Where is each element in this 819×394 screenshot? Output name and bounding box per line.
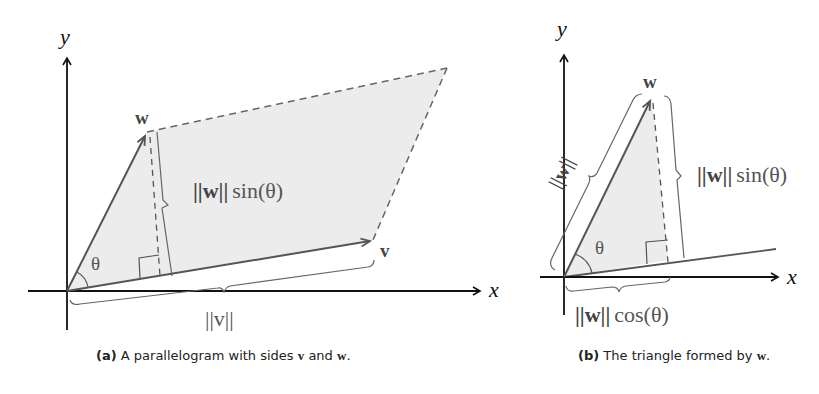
caption-b-w: w <box>757 348 766 363</box>
height-label: ||w||sin(θ) <box>193 178 283 203</box>
figure-b-triangle: x y w θ ||w|| ||w||sin(θ) ||w||cos(θ) <box>540 16 797 327</box>
caption-a: (a) A parallelogram with sides v and w. <box>96 348 351 364</box>
caption-b-text: The triangle formed by <box>603 348 752 363</box>
figure-a-parallelogram: x y w v θ ||w||sin(θ) ||v|| <box>28 24 499 331</box>
base-label: ||v|| <box>205 306 234 331</box>
caption-a-w: w <box>337 348 346 363</box>
angle-label-b: θ <box>595 237 604 258</box>
hypotenuse-label: ||w|| <box>544 153 579 192</box>
y-axis-label-b: y <box>555 16 567 41</box>
height-brace-b <box>664 96 684 258</box>
x-axis-label: x <box>488 277 499 302</box>
triangle-fill <box>564 97 668 277</box>
caption-a-tag: (a) <box>96 348 117 363</box>
caption-b-end: . <box>766 348 770 363</box>
vector-v-label: v <box>380 240 390 261</box>
caption-a-text: A parallelogram with sides <box>121 348 294 363</box>
base-brace-b <box>566 277 670 292</box>
height-label-b: ||w||sin(θ) <box>697 162 787 187</box>
base-label-b: ||w||cos(θ) <box>575 302 669 327</box>
y-axis-label: y <box>58 24 70 49</box>
vector-w-label-b: w <box>643 71 657 92</box>
caption-a-and: and <box>308 348 332 363</box>
vector-w-label: w <box>135 107 149 128</box>
caption-b: (b) The triangle formed by w. <box>578 348 770 364</box>
angle-label: θ <box>91 253 100 274</box>
caption-b-tag: (b) <box>578 348 599 363</box>
caption-a-end: . <box>346 348 350 363</box>
x-axis-label-b: x <box>786 264 797 289</box>
caption-a-v: v <box>298 348 305 363</box>
